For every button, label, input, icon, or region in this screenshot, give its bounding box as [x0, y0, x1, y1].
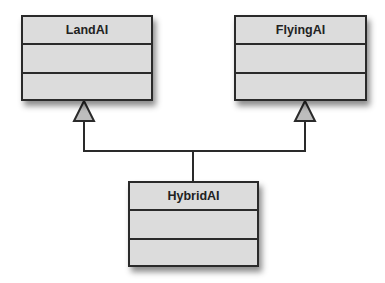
- attributes-compartment: [236, 45, 365, 74]
- operations-compartment: [23, 74, 151, 99]
- attributes-compartment: [23, 45, 151, 74]
- class-landai[interactable]: LandAI: [21, 15, 153, 101]
- class-flyingai[interactable]: FlyingAI: [234, 15, 367, 101]
- operations-compartment: [130, 240, 257, 265]
- class-hybridai[interactable]: HybridAI: [128, 181, 259, 267]
- class-name: LandAI: [23, 17, 151, 45]
- class-name: FlyingAI: [236, 17, 365, 45]
- class-name: HybridAI: [130, 183, 257, 211]
- attributes-compartment: [130, 211, 257, 240]
- generalization-arrow-flying-icon: [295, 101, 315, 121]
- operations-compartment: [236, 74, 365, 99]
- inheritance-line: [84, 121, 305, 151]
- generalization-arrow-land-icon: [74, 101, 94, 121]
